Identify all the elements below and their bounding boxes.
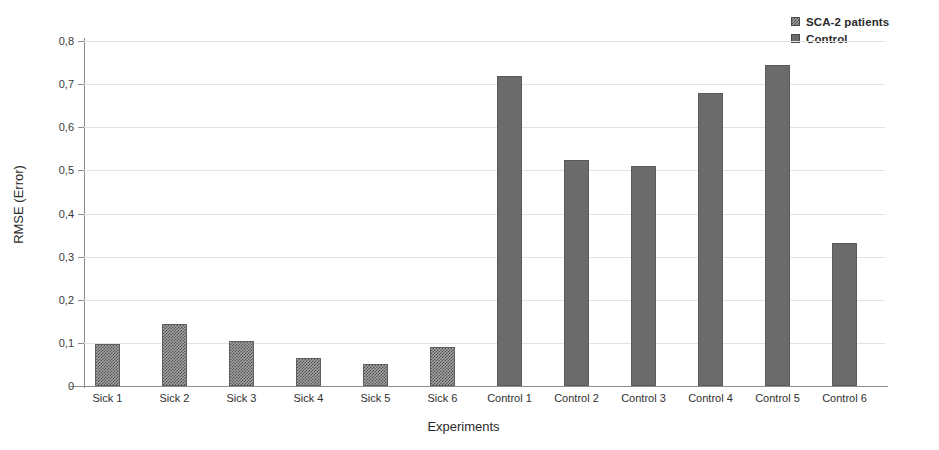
x-axis-tick-label: Sick 1 <box>93 392 123 404</box>
gridline <box>84 41 885 42</box>
y-axis-tick-label: 0,7 <box>44 78 74 90</box>
bar-sick-6 <box>430 347 455 386</box>
x-axis-line <box>70 386 888 387</box>
x-axis-tick-label: Control 4 <box>688 392 733 404</box>
bar-sick-1 <box>95 344 120 386</box>
y-axis-tick-label: 0,5 <box>44 164 74 176</box>
y-axis-tick-label: 0,1 <box>44 337 74 349</box>
legend-item-sca2-patients: SCA-2 patients <box>791 14 937 29</box>
y-axis-tick-mark <box>78 257 84 258</box>
x-axis-title-text: Experiments <box>427 419 499 434</box>
y-axis-tick-label: 0,3 <box>44 251 74 263</box>
x-axis-tick-label: Control 6 <box>822 392 867 404</box>
y-axis-tick-labels: 00,10,20,30,40,50,60,70,8 <box>40 0 74 450</box>
bar-sick-4 <box>296 358 321 386</box>
x-axis-tick-label: Control 1 <box>487 392 532 404</box>
x-axis-tick-label: Control 5 <box>755 392 800 404</box>
y-axis-tick-label: 0,8 <box>44 35 74 47</box>
x-axis-tick-label: Sick 6 <box>428 392 458 404</box>
legend-label-patients: SCA-2 patients <box>806 16 889 28</box>
bar-chart: SCA-2 patients Control 00,10,20,30,40,50… <box>0 0 939 450</box>
x-axis-tick-label: Sick 4 <box>294 392 324 404</box>
y-axis-tick-mark <box>78 41 84 42</box>
plot-area <box>84 41 885 386</box>
y-axis-tick-label: 0 <box>44 380 74 392</box>
y-axis-tick-label: 0,2 <box>44 294 74 306</box>
y-axis-tick-mark <box>78 127 84 128</box>
bar-control-2 <box>564 160 589 386</box>
y-axis-tick-mark <box>78 386 84 387</box>
y-axis-tick-mark <box>78 300 84 301</box>
y-axis-tick-mark <box>78 214 84 215</box>
bar-control-5 <box>765 65 790 386</box>
y-axis-tick-label: 0,6 <box>44 121 74 133</box>
y-axis-tick-mark <box>78 343 84 344</box>
x-axis-title: Experiments <box>0 419 939 434</box>
bar-control-4 <box>698 93 723 386</box>
x-axis-tick-label: Sick 5 <box>361 392 391 404</box>
y-axis-tick-mark <box>78 84 84 85</box>
x-axis-tick-label: Sick 3 <box>227 392 257 404</box>
y-axis-tick-mark <box>78 170 84 171</box>
bar-control-3 <box>631 166 656 386</box>
x-axis-tick-label: Sick 2 <box>160 392 190 404</box>
bar-sick-5 <box>363 364 388 386</box>
bar-sick-2 <box>162 324 187 386</box>
y-axis-tick-label: 0,4 <box>44 208 74 220</box>
legend-swatch-icon-patients <box>791 17 800 26</box>
x-axis-tick-label: Control 2 <box>554 392 599 404</box>
bar-control-6 <box>832 243 857 386</box>
bar-control-1 <box>497 76 522 387</box>
bar-sick-3 <box>229 341 254 386</box>
x-axis-tick-label: Control 3 <box>621 392 666 404</box>
y-axis-title: RMSE (Error) <box>11 125 26 285</box>
